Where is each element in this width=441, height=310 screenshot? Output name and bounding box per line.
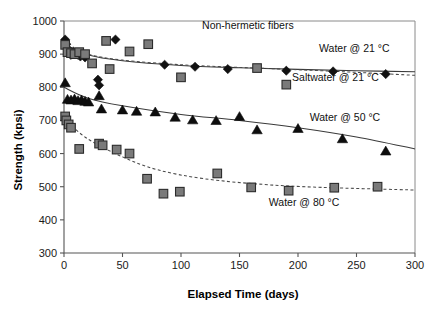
x-tick-label: 150 [230,259,248,271]
data-point-square [373,182,382,191]
data-point-square [144,40,153,49]
chart-figure: 3004005006007008009001000 05010015020025… [0,0,441,310]
series-annotation-label: Water @ 21 °C [319,42,390,54]
series-annotation-label: Saltwater @ 21 °C [292,71,379,83]
y-tick-label: 400 [39,214,57,226]
data-point-square [159,189,168,198]
y-tick-label: 700 [39,114,57,126]
data-point-square [67,123,76,132]
x-tick-label: 50 [116,259,128,271]
x-tick-label: 250 [347,259,365,271]
data-point-square [247,183,256,192]
y-tick-label: 300 [39,247,57,259]
data-point-square [102,37,111,46]
y-tick-label: 900 [39,48,57,60]
data-point-square [105,65,114,74]
data-point-square [176,187,185,196]
data-point-square [112,145,121,154]
y-tick-label: 1000 [33,15,57,27]
y-tick-label: 500 [39,181,57,193]
x-tick-label: 300 [406,259,424,271]
y-tick-label: 600 [39,148,57,160]
scatter-plot-canvas: 3004005006007008009001000 05010015020025… [0,0,441,310]
x-tick-label: 100 [172,259,190,271]
data-point-square [98,141,107,150]
y-tick-label: 800 [39,81,57,93]
x-tick-label: 0 [61,259,67,271]
data-point-square [143,174,152,183]
data-point-square [125,47,134,56]
y-axis-title: Strength (kpsi) [12,109,24,190]
data-point-square [330,183,339,192]
data-point-square [88,59,97,68]
series-annotation-label: Water @ 50 °C [310,111,381,123]
data-point-square [253,64,262,73]
data-point-square [284,186,293,195]
x-axis-title: Elapsed Time (days) [188,288,299,300]
data-point-square [81,50,90,59]
data-point-square [75,145,84,154]
x-tick-label: 200 [289,259,307,271]
data-point-square [125,149,134,158]
series-annotation-label: Water @ 80 °C [269,196,340,208]
data-point-square [282,80,291,89]
plot-title-label: Non-hermetic fibers [202,19,294,31]
data-point-square [177,73,186,82]
data-point-square [213,169,222,178]
